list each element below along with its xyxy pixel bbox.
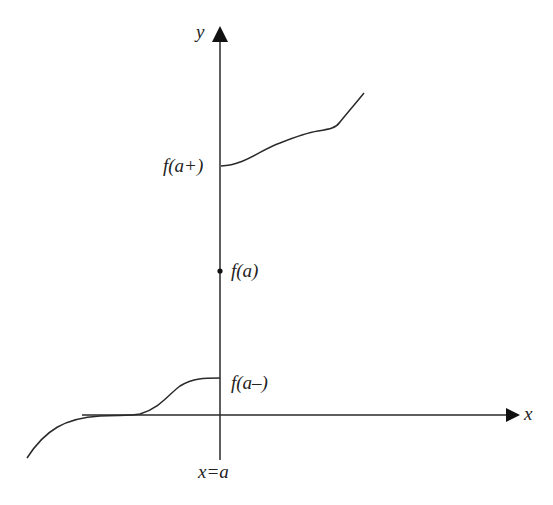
y-axis-label: y bbox=[194, 21, 205, 42]
diagram-canvas: y x x=a f(a+) f(a) f(a–) bbox=[0, 0, 553, 505]
point-value-label: f(a) bbox=[231, 260, 258, 282]
upper-limit-label: f(a+) bbox=[163, 155, 203, 177]
vertical-line-label: x=a bbox=[197, 461, 229, 482]
right-branch-curve bbox=[221, 93, 364, 166]
left-branch-curve bbox=[27, 378, 220, 458]
x-axis-arrow-icon bbox=[506, 408, 520, 422]
x-axis-label: x bbox=[523, 403, 533, 424]
y-axis-arrow-icon bbox=[212, 26, 228, 42]
lower-limit-label: f(a–) bbox=[231, 372, 268, 394]
point-f-a bbox=[217, 268, 222, 273]
